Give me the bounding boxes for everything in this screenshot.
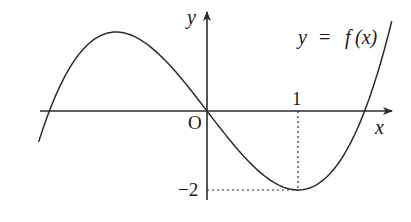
function-label-equals: =	[319, 26, 330, 48]
y-axis-label: y	[185, 6, 196, 29]
function-curve	[39, 21, 392, 190]
origin-label: O	[188, 112, 202, 133]
function-label: y = f (x)	[296, 26, 378, 49]
function-graph: y x O 1 −2 y = f (x)	[0, 0, 411, 222]
function-label-args: (x)	[355, 26, 378, 49]
function-label-y: y	[296, 26, 307, 49]
x-axis-label: x	[374, 116, 384, 138]
function-label-f: f	[345, 26, 353, 49]
y-tick-label-neg2: −2	[178, 179, 198, 200]
x-tick-label-1: 1	[292, 88, 302, 109]
